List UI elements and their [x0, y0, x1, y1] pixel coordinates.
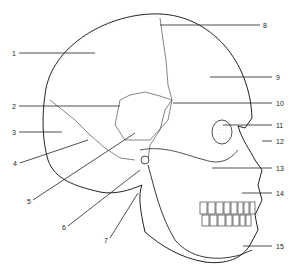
label-9: 9 [276, 74, 280, 81]
orbit [212, 120, 232, 144]
skull-diagram: 1 2 3 4 5 6 7 8 9 10 11 12 13 14 15 [0, 0, 297, 276]
label-7: 7 [104, 237, 108, 244]
label-12: 12 [276, 138, 284, 145]
label-8: 8 [263, 22, 267, 29]
label-14: 14 [276, 190, 284, 197]
teeth [200, 202, 255, 226]
label-13: 13 [276, 165, 284, 172]
label-10: 10 [276, 100, 284, 107]
external-acoustic-meatus [141, 156, 149, 164]
label-2: 2 [12, 103, 16, 110]
label-5: 5 [27, 198, 31, 205]
label-4: 4 [13, 160, 17, 167]
label-1: 1 [12, 50, 16, 57]
label-6: 6 [62, 224, 66, 231]
label-11: 11 [276, 122, 283, 129]
label-3: 3 [12, 129, 16, 136]
label-15: 15 [276, 243, 284, 250]
